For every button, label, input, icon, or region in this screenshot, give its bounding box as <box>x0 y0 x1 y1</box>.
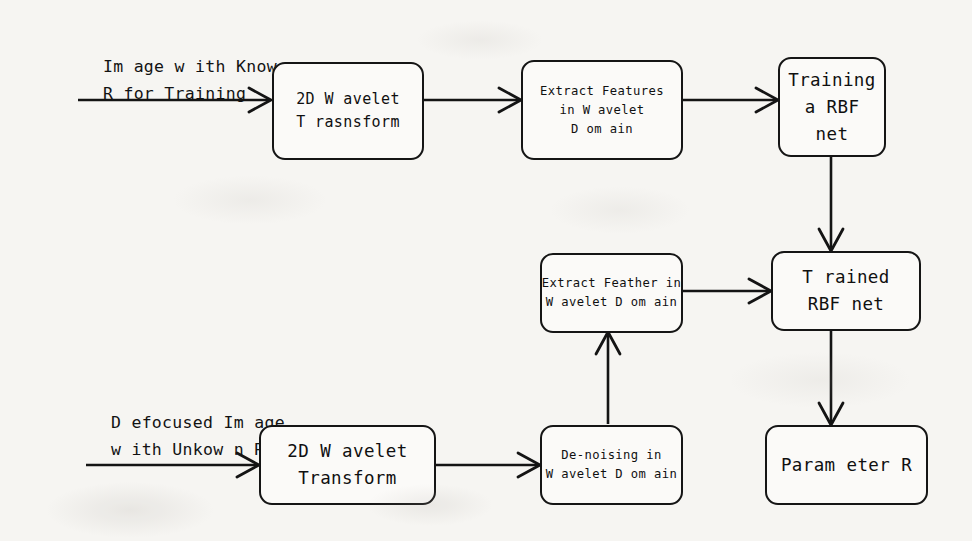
caption-test-input-line1: D efocused Im age <box>111 413 285 432</box>
edge-trained-to-parameter <box>819 331 843 425</box>
node-denoising[interactable]: De-noising in W avelet D om ain <box>540 425 683 505</box>
node-wavelet-test[interactable]: 2D W avelet Transform <box>259 425 436 505</box>
edge-train-rbf-to-trained-rbf <box>819 157 843 251</box>
node-trained-rbf-line2: RBF net <box>808 291 885 318</box>
node-wavelet-test-line1: 2D W avelet <box>287 438 407 465</box>
node-extract-test-line2: W avelet D om ain <box>546 293 678 312</box>
node-train-rbf-line1: Training <box>788 67 876 94</box>
caption-train-input-line1: Im age w ith Know n <box>103 57 297 76</box>
caption-test-input-line2: w ith Unkow n R <box>111 440 265 459</box>
node-wavelet-train-line2: T rasnsform <box>296 111 400 134</box>
edge-extract-test-to-trained <box>683 279 771 303</box>
edge-denoising-to-extract-test <box>596 332 620 424</box>
node-extract-train[interactable]: Extract Features in W avelet D om ain <box>521 60 683 160</box>
node-train-rbf[interactable]: Training a RBF net <box>778 57 886 157</box>
node-wavelet-test-line2: Transform <box>298 465 396 492</box>
edge-extract-to-train-rbf <box>683 88 778 112</box>
node-extract-test[interactable]: Extract Feather in W avelet D om ain <box>540 253 683 333</box>
caption-train-input-line2: R for Training <box>103 84 246 103</box>
edge-wavelet-test-to-denoising <box>436 453 540 477</box>
node-parameter-r-line1: Param eter R <box>781 452 912 479</box>
caption-test-input: D efocused Im age w ith Unkow n R <box>70 382 285 490</box>
flowchart-canvas: Im age w ith Know n R for Training D efo… <box>0 0 972 541</box>
node-extract-train-line3: D om ain <box>571 120 633 139</box>
edge-wavelet-to-extract <box>424 88 521 112</box>
node-extract-test-line1: Extract Feather in <box>542 274 681 293</box>
node-trained-rbf-line1: T rained <box>802 264 890 291</box>
node-extract-train-line2: in W avelet <box>559 101 644 120</box>
node-denoising-line1: De-noising in <box>561 446 662 465</box>
node-denoising-line2: W avelet D om ain <box>546 465 678 484</box>
node-wavelet-train[interactable]: 2D W avelet T rasnsform <box>272 62 424 160</box>
node-train-rbf-line3: net <box>816 121 849 148</box>
node-extract-train-line1: Extract Features <box>540 82 664 101</box>
node-train-rbf-line2: a RBF <box>805 94 860 121</box>
node-parameter-r[interactable]: Param eter R <box>765 425 928 505</box>
node-trained-rbf[interactable]: T rained RBF net <box>771 251 921 331</box>
node-wavelet-train-line1: 2D W avelet <box>296 88 400 111</box>
caption-train-input: Im age w ith Know n R for Training <box>62 26 297 134</box>
